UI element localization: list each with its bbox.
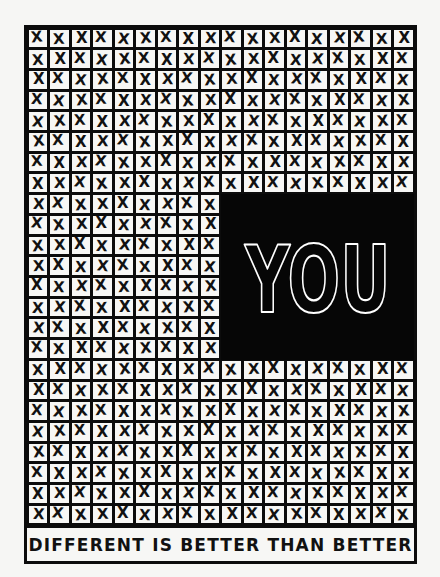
x-mark: X	[398, 31, 410, 46]
x-mark: X	[396, 361, 408, 377]
x-mark: X	[118, 405, 130, 420]
x-cell: X	[158, 174, 177, 192]
x-cell: X	[308, 154, 327, 172]
x-mark: X	[181, 71, 194, 87]
x-cell: X	[222, 506, 241, 524]
x-mark: X	[95, 216, 107, 231]
x-cell: X	[287, 361, 306, 379]
x-mark: X	[117, 196, 129, 211]
x-cell: X	[29, 195, 48, 213]
x-cell: X	[72, 257, 91, 275]
x-cell: X	[179, 464, 198, 482]
x-cell: X	[115, 361, 134, 379]
x-cell: X	[29, 112, 48, 130]
x-mark: X	[95, 278, 108, 294]
x-mark: X	[181, 195, 194, 211]
x-mark: X	[310, 444, 322, 460]
x-mark: X	[269, 92, 282, 108]
x-cell: X	[265, 485, 284, 503]
x-cell: X	[373, 50, 392, 68]
x-mark: X	[332, 485, 344, 501]
x-cell: X	[179, 112, 198, 130]
x-mark: X	[162, 383, 174, 399]
x-cell: X	[201, 174, 220, 192]
x-mark: X	[139, 135, 152, 151]
x-cell: X	[308, 444, 327, 462]
x-cell: X	[330, 133, 349, 151]
x-mark: X	[397, 446, 409, 461]
x-mark: X	[375, 93, 388, 109]
x-cell: X	[394, 485, 413, 503]
x-mark: X	[74, 112, 86, 128]
x-mark: X	[140, 403, 152, 419]
x-cell: X	[115, 485, 134, 503]
x-cell: X	[179, 257, 198, 275]
x-mark: X	[76, 155, 88, 171]
x-mark: X	[290, 382, 303, 398]
x-mark: X	[32, 52, 44, 68]
x-mark: X	[377, 52, 389, 67]
x-cell: X	[158, 340, 177, 358]
x-mark: X	[333, 155, 346, 171]
x-cell: X	[29, 92, 48, 110]
x-mark: X	[30, 216, 43, 232]
x-cell: X	[136, 319, 155, 337]
x-mark: X	[53, 467, 65, 482]
x-cell: X	[394, 112, 413, 130]
x-mark: X	[331, 50, 344, 66]
x-mark: X	[331, 361, 344, 377]
x-cell: X	[115, 71, 134, 89]
x-mark: X	[268, 384, 280, 400]
x-mark: X	[247, 94, 259, 110]
x-cell: X	[29, 154, 48, 172]
x-mark: X	[119, 424, 131, 440]
x-mark: X	[119, 486, 131, 502]
x-mark: X	[377, 486, 389, 502]
x-mark: X	[73, 174, 86, 190]
x-mark: X	[310, 71, 323, 87]
x-cell: X	[394, 92, 413, 110]
x-cell: X	[93, 216, 112, 234]
x-cell: X	[330, 382, 349, 400]
x-mark: X	[312, 424, 324, 439]
x-mark: X	[52, 258, 64, 273]
x-mark: X	[333, 465, 346, 481]
x-mark: X	[138, 175, 150, 190]
x-cell: X	[50, 444, 69, 462]
x-cell: X	[265, 444, 284, 462]
x-cell: X	[93, 464, 112, 482]
x-cell: X	[201, 30, 220, 48]
x-mark: X	[376, 467, 388, 482]
x-mark: X	[332, 135, 345, 151]
x-cell: X	[136, 464, 155, 482]
x-mark: X	[377, 362, 389, 377]
x-mark: X	[204, 446, 216, 462]
x-cell: X	[201, 216, 220, 234]
x-mark: X	[53, 32, 65, 48]
x-grid: XXXXXXXXXXXXXXXXXXXXXXXXXXXXXXXXXXXXXXXX…	[24, 25, 417, 528]
x-mark: X	[119, 176, 131, 192]
x-mark: X	[31, 402, 43, 418]
x-cell: X	[373, 423, 392, 441]
x-cell: X	[115, 174, 134, 192]
x-mark: X	[161, 320, 174, 336]
x-mark: X	[139, 508, 151, 524]
x-mark: X	[397, 508, 410, 524]
x-mark: X	[247, 156, 259, 172]
x-cell: X	[308, 402, 327, 420]
x-mark: X	[268, 508, 281, 524]
x-cell: X	[93, 340, 112, 358]
x-cell: X	[244, 154, 263, 172]
x-cell: X	[222, 50, 241, 68]
x-cell: X	[93, 154, 112, 172]
x-cell: X	[201, 506, 220, 524]
x-mark: X	[182, 93, 195, 109]
x-mark: X	[334, 404, 346, 419]
x-mark: X	[226, 72, 238, 88]
x-cell: X	[29, 50, 48, 68]
x-mark: X	[140, 341, 153, 357]
x-cell: X	[287, 402, 306, 420]
x-mark: X	[290, 72, 303, 88]
x-cell: X	[29, 506, 48, 524]
x-mark: X	[397, 73, 410, 89]
